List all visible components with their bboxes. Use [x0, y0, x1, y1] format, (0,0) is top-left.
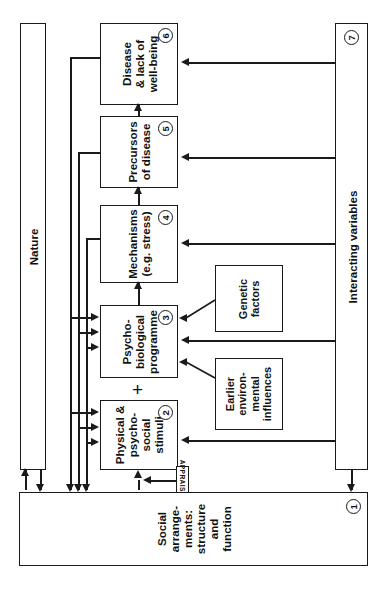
arrowhead-disease-from-interacting	[181, 58, 189, 66]
node-mechanisms-label: Mechanisms (e.g. stress)	[126, 209, 152, 279]
edge-disease-feedback-stub	[70, 57, 101, 59]
node-mechanisms[interactable]: Mechanisms (e.g. stress) 4	[100, 205, 178, 283]
node-genetic-factors-label: Genetic factors	[237, 278, 262, 318]
edge-social-to-stimuli	[138, 480, 140, 490]
node-nature[interactable]: Nature	[20, 23, 46, 470]
edge-interacting-to-stimuli	[189, 440, 335, 442]
arrowhead-programme-2	[91, 328, 99, 336]
plus-sign: +	[132, 380, 143, 399]
arrowhead-social-from-interacting	[347, 484, 355, 492]
node-programme-label: Psycho- biological programme	[120, 310, 159, 374]
arrowhead-bus1-social	[66, 484, 74, 492]
edge-mechanisms-feedback-bus	[86, 238, 88, 490]
node-disease-label: Disease & lack of well-being	[120, 36, 159, 93]
arrowhead-programme-1	[91, 313, 99, 321]
arrowhead-mechanisms-from-interacting	[181, 239, 189, 247]
node-genetic-factors[interactable]: Genetic factors	[215, 265, 283, 332]
edge-precursors-feedback-stub	[78, 152, 101, 154]
node-stimuli-label: Physical & psycho- social stimuli	[113, 406, 165, 465]
node-precursors-number: 5	[158, 121, 173, 136]
arrowhead-disease	[134, 103, 142, 111]
appraisal-label: APPRAISAL	[176, 466, 189, 494]
node-stimuli-number: 2	[158, 405, 173, 420]
edge-precursors-feedback-bus	[78, 152, 80, 490]
node-programme-number: 3	[158, 310, 173, 325]
node-earlier-environmental[interactable]: Earlier environ- mental influences	[215, 358, 283, 430]
arrowhead-stimuli-3	[91, 438, 99, 446]
diagram-canvas: Nature Disease & lack of well-being 6 Pr…	[0, 0, 386, 593]
arrowhead-precursors	[134, 186, 142, 194]
arrowhead-bus3-social	[82, 484, 90, 492]
node-mechanisms-number: 4	[158, 210, 173, 225]
arrowhead-bus2-social	[74, 484, 82, 492]
node-interacting-variables[interactable]: Interacting variables 7	[335, 23, 368, 470]
edge-interacting-to-disease	[189, 62, 335, 64]
edge-interacting-to-programme	[189, 340, 335, 342]
edge-interacting-to-mechanisms	[189, 243, 335, 245]
edge-bus-to-programme-2	[78, 332, 92, 334]
arrowhead-appraisal	[143, 476, 151, 484]
arrowhead-mechanisms	[134, 281, 142, 289]
arrowhead-stimuli-2	[91, 423, 99, 431]
arrowhead-down-social	[36, 484, 44, 492]
arrowhead-precursors-from-interacting	[181, 153, 189, 161]
node-social-arrangements[interactable]: Social arrange- ments: structure and fun…	[19, 492, 368, 566]
arrowhead-stimuli-from-interacting	[181, 436, 189, 444]
node-earlier-environmental-label: Earlier environ- mental influences	[224, 367, 273, 421]
node-precursors[interactable]: Precursors of disease 5	[100, 116, 178, 188]
arrowhead-programme-from-interacting	[181, 336, 189, 344]
arrowhead-genetic-to-programme	[179, 314, 187, 322]
edge-interacting-to-precursors	[189, 157, 335, 159]
node-social-arrangements-label: Social arrange- ments: structure and fun…	[155, 504, 233, 554]
node-interacting-variables-label: Interacting variables	[345, 190, 358, 303]
edge-bus-to-stimuli-2	[78, 427, 92, 429]
node-precursors-label: Precursors of disease	[126, 121, 152, 182]
node-nature-label: Nature	[27, 228, 40, 265]
edge-bus-to-stimuli-1	[70, 412, 92, 414]
node-stimuli[interactable]: Physical & psycho- social stimuli 2	[100, 400, 178, 470]
node-disease-number: 6	[158, 28, 173, 43]
edge-appraisal-link	[150, 480, 176, 482]
arrowhead-stimuli-1	[91, 408, 99, 416]
arrowhead-up-nature	[21, 468, 29, 476]
arrowhead-stimuli-from-social	[134, 470, 142, 478]
edge-mechanisms-feedback-stub	[86, 238, 101, 240]
edge-bus-to-programme-1	[70, 317, 92, 319]
arrowhead-earlier-to-programme	[179, 358, 187, 366]
node-social-arrangements-number: 1	[346, 499, 361, 514]
edge-disease-feedback-bus	[70, 57, 72, 490]
node-interacting-variables-number: 7	[344, 30, 359, 45]
arrowhead-programme-3	[91, 343, 99, 351]
node-disease[interactable]: Disease & lack of well-being 6	[100, 23, 178, 105]
node-programme[interactable]: Psycho- biological programme 3	[100, 305, 178, 378]
